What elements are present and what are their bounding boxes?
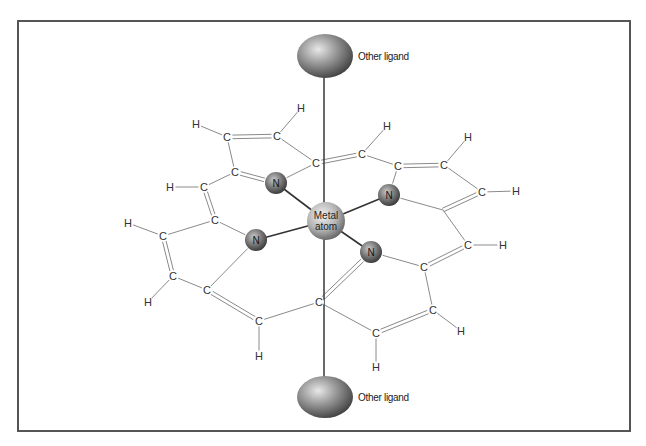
carbon-atom-label: C — [211, 214, 219, 226]
nitrogen-atom-label: N — [367, 247, 374, 258]
single-bond-line — [437, 313, 456, 327]
double-bond-line — [403, 163, 438, 164]
double-bond-line — [213, 291, 256, 316]
carbon-atom-label: C — [159, 230, 167, 242]
double-bond-line — [322, 259, 361, 297]
metal-atom: Metal atom — [307, 202, 345, 240]
single-bond-line — [211, 249, 248, 287]
double-bond-line — [233, 138, 272, 139]
nitrogen-atom-label: N — [385, 190, 392, 201]
hydrogen-atom-label: H — [457, 325, 465, 337]
carbon-atom-label: C — [203, 284, 211, 296]
single-bond-line — [383, 255, 419, 265]
single-bond-line — [487, 191, 510, 192]
single-bond-line — [168, 222, 209, 235]
double-bond-line — [382, 314, 429, 333]
double-bond-line — [211, 294, 254, 319]
double-bond-line — [380, 310, 427, 329]
double-bond-line — [241, 172, 265, 178]
hydrogen-atom-label: H — [512, 185, 520, 197]
double-bond-line — [207, 192, 215, 215]
double-bond-line — [430, 249, 464, 266]
carbon-atom-label: C — [420, 261, 428, 273]
double-bond-line — [428, 246, 462, 263]
single-bond-line — [324, 305, 371, 331]
hydrogen-atom-label: H — [383, 120, 391, 132]
single-bond-line — [367, 156, 393, 165]
double-bond-line — [404, 167, 439, 168]
hydrogen-atom-label: H — [297, 102, 305, 114]
hydrogen-atom-label: H — [372, 361, 380, 373]
single-bond-line — [178, 278, 202, 288]
bottom-ligand-label: Other ligand — [358, 392, 409, 403]
single-bond-line — [152, 280, 169, 298]
carbon-atom-label: C — [429, 304, 437, 316]
single-bond-line — [425, 272, 432, 304]
double-bond-line — [324, 262, 363, 300]
single-bond-line — [264, 304, 314, 320]
single-bond-line — [133, 225, 158, 234]
double-bond-line — [321, 153, 356, 160]
single-bond-line — [448, 141, 465, 161]
hydrogen-atom-label: H — [192, 118, 200, 130]
metal-atom-label-line1: Metal — [314, 210, 338, 221]
hydrogen-atom-label: H — [499, 239, 507, 251]
single-bond-line — [393, 171, 397, 183]
hydrogen-atom-label: H — [166, 181, 174, 193]
carbon-atom-label: C — [223, 131, 231, 143]
single-bond-line — [201, 126, 222, 135]
carbon-atom-label: C — [394, 160, 402, 172]
double-bond-line — [444, 196, 478, 212]
carbon-atom-label: C — [478, 186, 486, 198]
double-bond-line — [322, 157, 357, 164]
carbon-atom-label: C — [255, 315, 263, 327]
carbon-atom-label: C — [358, 148, 366, 160]
single-bond-line — [448, 168, 477, 189]
single-bond-line — [220, 222, 245, 234]
top-ligand-label: Other ligand — [358, 51, 409, 62]
hydrogen-atom-label: H — [255, 350, 263, 362]
carbon-atom-label: C — [200, 181, 208, 193]
single-bond-line — [282, 139, 312, 160]
porphyrin-metal-complex-diagram: HCCHCCHCCHCCHCCHCCHCHCCHCHCHCCH NNNN Met… — [0, 0, 646, 446]
top-ligand-sphere — [297, 34, 353, 78]
single-bond-line — [209, 174, 230, 184]
nitrogen-atom-label: N — [272, 178, 279, 189]
double-bond-line — [232, 134, 271, 135]
diagram-canvas: HCCHCCHCCHCCHCCHCCHCHCCHCHCHCCH NNNN Met… — [0, 0, 646, 446]
double-bond-line — [240, 175, 264, 181]
carbon-atom-label: C — [312, 157, 320, 169]
hydrogen-atom-label: H — [144, 296, 152, 308]
single-bond-line — [443, 210, 465, 241]
hydrogen-atom-label: H — [464, 131, 472, 143]
metal-atom-label-line2: atom — [315, 221, 337, 232]
single-bond-line — [366, 130, 384, 150]
double-bond-line — [163, 242, 170, 271]
single-bond-line — [287, 165, 311, 177]
hydrogen-atom-label: H — [124, 217, 132, 229]
nitrogen-atom-label: N — [252, 235, 259, 246]
double-bond-line — [166, 241, 173, 270]
carbon-atom-label: C — [273, 130, 281, 142]
carbon-atom-label: C — [169, 270, 177, 282]
double-bond-line — [204, 193, 212, 216]
single-bond-line — [228, 142, 234, 166]
carbon-atom-label: C — [372, 327, 380, 339]
carbon-atom-label: C — [440, 159, 448, 171]
carbon-atom-label: C — [315, 296, 323, 308]
single-bond-line — [401, 198, 443, 210]
double-bond-line — [442, 193, 476, 209]
single-bond-line — [281, 112, 298, 132]
carbon-atom-label: C — [464, 239, 472, 251]
bottom-ligand-sphere — [297, 376, 353, 418]
carbon-atom-label: C — [231, 166, 239, 178]
